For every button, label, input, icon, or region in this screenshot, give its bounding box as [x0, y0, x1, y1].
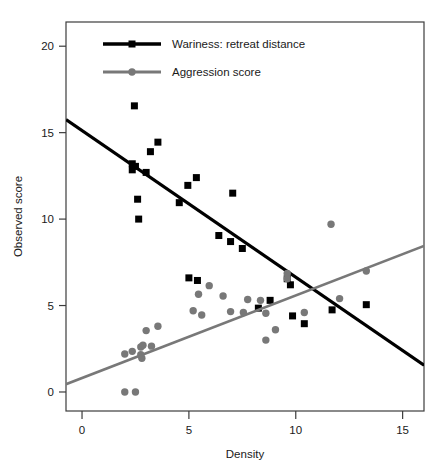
data-point-circle: [227, 308, 234, 315]
data-point-circle: [198, 311, 205, 318]
data-point-circle: [138, 355, 145, 362]
data-point-circle: [129, 348, 136, 355]
x-tick-label: 5: [186, 424, 192, 436]
data-point-circle: [262, 336, 269, 343]
data-point-square: [301, 320, 308, 327]
data-point-circle: [284, 275, 291, 282]
data-point-circle: [262, 310, 269, 317]
data-point-square: [129, 166, 136, 173]
plot-data: [66, 102, 424, 395]
data-point-circle: [142, 327, 149, 334]
data-point-square: [194, 277, 201, 284]
data-point-square: [193, 174, 200, 181]
data-point-square: [267, 297, 274, 304]
data-point-circle: [121, 388, 128, 395]
data-point-circle: [327, 221, 334, 228]
data-point-square: [154, 139, 161, 146]
plot-frame: [66, 22, 424, 411]
data-point-circle: [336, 295, 343, 302]
data-point-circle: [240, 309, 247, 316]
data-point-square: [131, 102, 138, 109]
data-point-square: [363, 301, 370, 308]
data-point-circle: [189, 307, 196, 314]
x-tick-label: 15: [396, 424, 409, 436]
data-point-circle: [272, 326, 279, 333]
y-axis-title: Observed score: [12, 176, 24, 257]
y-tick-label: 15: [41, 127, 54, 139]
y-tick-label: 10: [41, 213, 54, 225]
data-point-square: [147, 148, 154, 155]
data-point-circle: [244, 296, 251, 303]
legend-label: Wariness: retreat distance: [172, 38, 305, 50]
trend-line: [66, 120, 424, 366]
data-point-square: [215, 232, 222, 239]
x-tick-label: 0: [79, 424, 85, 436]
data-point-square: [289, 312, 296, 319]
x-tick-label: 10: [289, 424, 302, 436]
data-point-circle: [139, 342, 146, 349]
data-point-square: [176, 199, 183, 206]
y-tick-label: 5: [48, 300, 54, 312]
series-wariness: [66, 102, 424, 365]
data-point-circle: [121, 350, 128, 357]
data-point-square: [227, 238, 234, 245]
data-point-square: [184, 182, 191, 189]
data-point-circle: [154, 323, 161, 330]
data-point-circle: [219, 292, 226, 299]
y-tick-label: 0: [48, 386, 54, 398]
data-point-square: [239, 245, 246, 252]
data-point-circle: [257, 297, 264, 304]
data-point-circle: [132, 388, 139, 395]
data-point-square: [143, 169, 150, 176]
legend-item-aggression: Aggression score: [103, 66, 261, 78]
data-point-square: [229, 190, 236, 197]
data-point-circle: [301, 309, 308, 316]
data-point-square: [135, 216, 142, 223]
data-point-square: [185, 274, 192, 281]
legend-label: Aggression score: [172, 66, 261, 78]
data-point-circle: [148, 342, 155, 349]
scatter-plot: 05101520051015 Wariness: retreat distanc…: [0, 0, 442, 470]
legend-item-wariness: Wariness: retreat distance: [103, 38, 305, 50]
data-point-circle: [206, 282, 213, 289]
axes: 05101520051015: [41, 22, 424, 436]
data-point-circle: [195, 291, 202, 298]
legend-marker-square: [129, 41, 136, 48]
data-point-square: [134, 196, 141, 203]
y-tick-label: 20: [41, 40, 54, 52]
chart-legend: Wariness: retreat distanceAggression sco…: [103, 38, 305, 78]
x-axis-title: Density: [226, 448, 265, 460]
data-point-circle: [363, 267, 370, 274]
data-point-square: [329, 306, 336, 313]
legend-marker-circle: [128, 68, 135, 75]
chart-figure: 05101520051015 Wariness: retreat distanc…: [0, 0, 442, 470]
